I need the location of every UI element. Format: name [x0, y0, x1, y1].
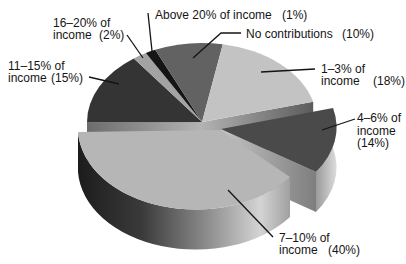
label-1-3-line2: income [321, 74, 360, 88]
leader-16-20 [127, 35, 143, 58]
label-above-20-pct: (1%) [282, 8, 307, 22]
label-16-20-line2: income [53, 28, 92, 42]
label-no-contributions-line1: No contributions [246, 27, 333, 41]
label-11-15-pct: (15%) [51, 71, 83, 85]
label-above-20-line1: Above 20% of income [155, 8, 272, 22]
label-7-10-line2: income [279, 243, 318, 257]
label-16-20-pct: (2%) [99, 28, 124, 42]
label-1-3-pct: (18%) [373, 74, 405, 88]
pie-chart: Above 20% of income (1%) 16–20% of incom… [0, 0, 406, 264]
label-11-15-line2: income [8, 71, 47, 85]
label-no-contributions-pct: (10%) [342, 27, 374, 41]
label-7-10-pct: (40%) [328, 243, 360, 257]
label-4-6-pct: (14%) [357, 136, 389, 150]
leader-above-20 [148, 13, 152, 51]
